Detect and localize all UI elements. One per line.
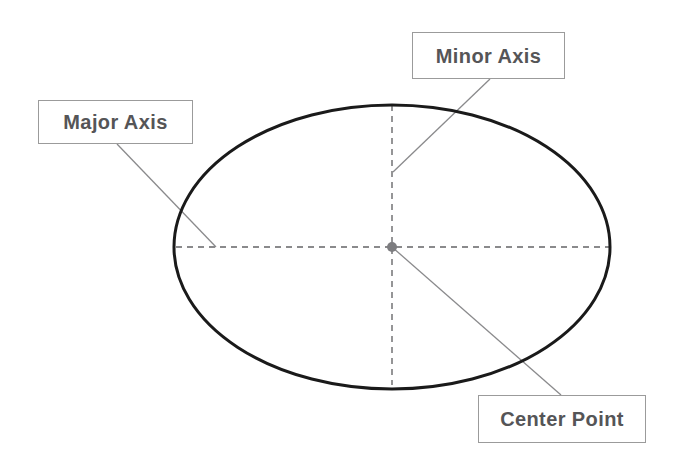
center-point-dot: [387, 242, 397, 252]
callout-box-minor-axis[interactable]: Minor Axis: [412, 32, 565, 79]
ellipse-diagram: Major Axis Minor Axis Center Point: [0, 0, 686, 465]
leader-line-major-axis: [117, 144, 216, 247]
callout-label-minor-axis: Minor Axis: [436, 46, 542, 66]
callout-box-major-axis[interactable]: Major Axis: [38, 100, 193, 144]
leader-line-center-point: [392, 247, 561, 395]
leader-line-minor-axis: [393, 79, 490, 172]
callout-label-major-axis: Major Axis: [63, 112, 167, 132]
callout-box-center-point[interactable]: Center Point: [478, 395, 646, 443]
callout-label-center-point: Center Point: [500, 409, 624, 429]
